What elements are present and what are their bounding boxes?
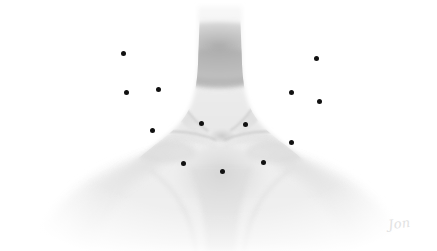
anatomical-figure: Jon: [0, 0, 437, 251]
marker-point-3[interactable]: [124, 90, 129, 95]
marker-point-1[interactable]: [121, 51, 126, 56]
marker-point-13[interactable]: [220, 169, 225, 174]
marker-point-11[interactable]: [181, 161, 186, 166]
marker-point-5[interactable]: [289, 90, 294, 95]
artist-signature: Jon: [388, 215, 412, 233]
marker-point-4[interactable]: [156, 87, 161, 92]
marker-point-7[interactable]: [199, 121, 204, 126]
marker-point-8[interactable]: [243, 122, 248, 127]
marker-point-9[interactable]: [150, 128, 155, 133]
marker-point-12[interactable]: [261, 160, 266, 165]
marker-point-6[interactable]: [317, 99, 322, 104]
anatomy-illustration: [0, 0, 437, 251]
marker-point-2[interactable]: [314, 56, 319, 61]
marker-point-10[interactable]: [289, 140, 294, 145]
